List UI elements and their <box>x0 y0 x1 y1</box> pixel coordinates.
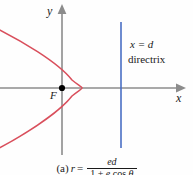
focus-point-marker <box>59 85 65 91</box>
denominator-angle: θ <box>129 168 134 176</box>
y-axis-label: y <box>47 5 52 17</box>
figure-caption: (a) r = ed 1 + e cos θ <box>0 157 193 175</box>
fraction-denominator: 1 + e cos θ <box>87 169 136 176</box>
fraction-numerator: ed <box>103 157 120 168</box>
caption-equals: = <box>77 162 83 174</box>
denominator-trig: cos <box>110 168 128 176</box>
directrix-word-label: directrix <box>128 54 165 65</box>
parabola-curve <box>0 27 82 151</box>
plot-canvas <box>0 0 193 175</box>
caption-variable: r <box>71 162 75 174</box>
x-axis-label: x <box>176 92 181 104</box>
conic-directrix-figure: y x F x = d directrix (a) r = ed 1 + e c… <box>0 0 193 175</box>
caption-row: (a) r = ed 1 + e cos θ <box>56 157 136 175</box>
caption-fraction: ed 1 + e cos θ <box>87 157 136 175</box>
focus-label: F <box>50 90 57 101</box>
caption-prefix: (a) <box>56 162 68 174</box>
directrix-equation-label: x = d <box>130 39 153 50</box>
denominator-lead: 1 + <box>90 168 106 176</box>
y-axis-arrow-icon <box>58 4 67 14</box>
